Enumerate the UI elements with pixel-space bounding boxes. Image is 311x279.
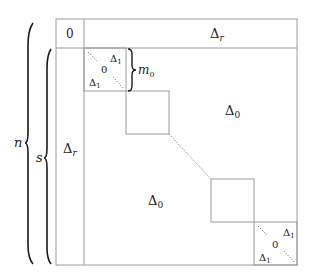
first-block-diagonal-dots-lower [113,77,124,89]
block-matrix-diagram: 0 Δr Δr Δ0 Δ0 Δ1 0 Δ1 m0 Δ1 0 Δ1 n s [0,0,311,279]
first-block-delta-1-bottom: Δ1 [89,77,101,90]
top-left-zero-label: 0 [66,27,74,41]
last-block-delta-1-top: Δ1 [283,227,295,240]
last-block-zero: 0 [272,239,278,250]
upper-delta-0-label: Δ0 [225,103,240,120]
first-block-delta-1-top: Δ1 [110,53,122,66]
n-brace-icon [25,23,33,264]
last-block-delta-1-bottom: Δ1 [259,252,271,265]
m0-label: m0 [138,63,154,79]
m0-brace-icon [128,49,136,91]
lower-delta-0-label: Δ0 [148,193,163,210]
first-block-zero: 0 [101,64,107,75]
second-diagonal-block [126,91,169,134]
n-brace-label: n [14,135,22,150]
s-brace-icon [44,49,51,264]
top-row-delta-r-label: Δr [210,26,224,43]
third-diagonal-block [211,179,254,222]
s-brace-label: s [36,150,43,165]
last-block-diagonal-dots-upper [258,226,267,235]
last-block-diagonal-dots-lower [284,251,294,262]
first-block-diagonal-dots-upper [88,52,97,61]
diagonal-ellipsis-dots [169,134,211,179]
left-column-delta-r-label: Δr [63,141,77,158]
